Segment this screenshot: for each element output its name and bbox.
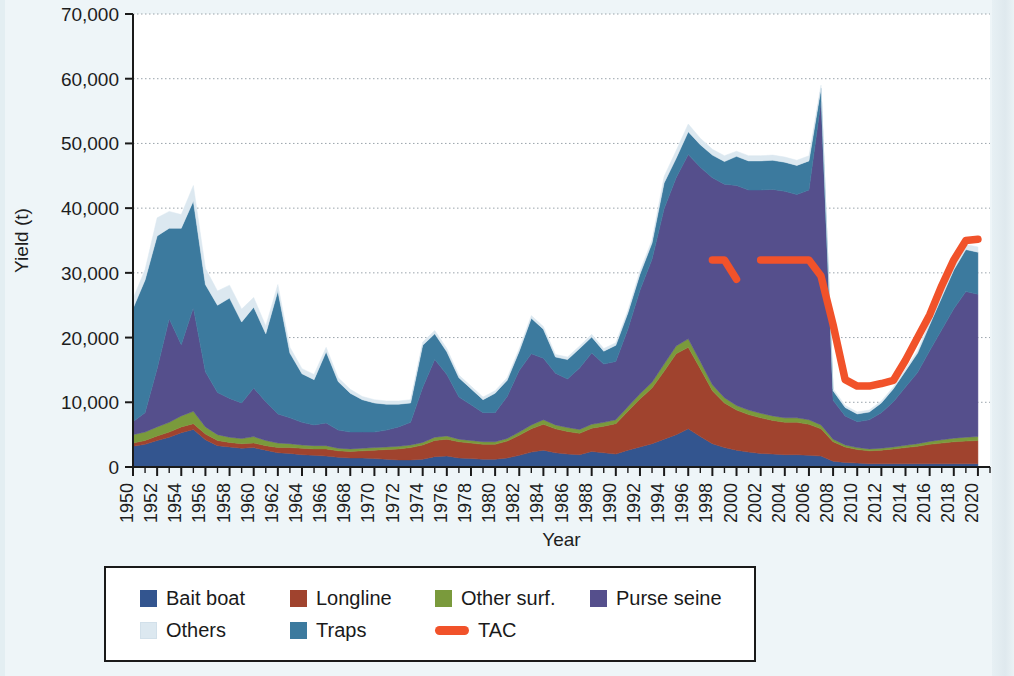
x-tick-label: 1994 — [648, 483, 668, 523]
legend-color-swatch-traps — [290, 622, 307, 639]
legend-color-swatch-bait-boat — [140, 590, 157, 607]
legend-item-purse-seine[interactable]: Purse seine — [590, 587, 722, 610]
x-tick-label: 1952 — [141, 483, 161, 523]
x-axis-ticks: 1950195219541956195819601962196419661968… — [117, 467, 990, 523]
x-tick-label: 1966 — [310, 483, 330, 523]
legend-label-purse-seine: Purse seine — [616, 587, 722, 610]
x-tick-label: 1978 — [455, 483, 475, 523]
x-tick-label: 2008 — [817, 483, 837, 523]
legend-label-tac: TAC — [478, 619, 517, 642]
x-tick-label: 1958 — [214, 483, 234, 523]
x-tick-label: 2018 — [938, 483, 958, 523]
x-tick-label: 1950 — [117, 483, 137, 523]
legend-color-swatch-others — [140, 622, 157, 639]
x-tick-label: 1982 — [503, 483, 523, 523]
x-tick-label: 2016 — [914, 483, 934, 523]
x-tick-label: 1960 — [238, 483, 258, 523]
legend-color-swatch-longline — [290, 590, 307, 607]
legend-item-longline[interactable]: Longline — [290, 587, 435, 610]
legend-label-longline: Longline — [316, 587, 392, 610]
legend-item-bait-boat[interactable]: Bait boat — [140, 587, 290, 610]
x-tick-label: 2002 — [745, 483, 765, 523]
legend-color-swatch-other-surf — [435, 590, 452, 607]
x-tick-label: 2004 — [769, 483, 789, 523]
x-tick-label: 1992 — [624, 483, 644, 523]
x-tick-label: 1970 — [358, 483, 378, 523]
y-tick-label: 40,000 — [61, 198, 119, 219]
x-tick-label: 1976 — [431, 483, 451, 523]
x-tick-label: 2014 — [890, 483, 910, 523]
legend-color-swatch-purse-seine — [590, 590, 607, 607]
x-tick-label: 1962 — [262, 483, 282, 523]
y-tick-label: 50,000 — [61, 133, 119, 154]
legend-label-others: Others — [166, 619, 226, 642]
legend-item-other-surf[interactable]: Other surf. — [435, 587, 590, 610]
x-tick-label: 1972 — [383, 483, 403, 523]
page-edge-left — [0, 0, 5, 676]
legend-item-tac[interactable]: TAC — [435, 619, 517, 642]
y-tick-label: 30,000 — [61, 263, 119, 284]
x-tick-label: 1998 — [696, 483, 716, 523]
legend-label-other-surf: Other surf. — [461, 587, 555, 610]
x-tick-label: 1956 — [189, 483, 209, 523]
x-axis-title: Year — [542, 529, 581, 550]
legend-row: OthersTrapsTAC — [140, 614, 754, 646]
x-tick-label: 2012 — [865, 483, 885, 523]
figure-root: 010,00020,00030,00040,00050,00060,00070,… — [0, 0, 1014, 676]
x-tick-label: 1988 — [576, 483, 596, 523]
x-tick-label: 2000 — [721, 483, 741, 523]
x-tick-label: 2010 — [841, 483, 861, 523]
legend-line-swatch-tac — [435, 626, 469, 635]
stacked-area-chart: 010,00020,00030,00040,00050,00060,00070,… — [0, 0, 1014, 566]
legend-label-traps: Traps — [316, 619, 366, 642]
y-tick-label: 20,000 — [61, 328, 119, 349]
page-edge-right — [992, 0, 1014, 676]
x-tick-label: 1986 — [552, 483, 572, 523]
legend-row: Bait boatLonglineOther surf.Purse seine — [140, 582, 754, 614]
x-tick-label: 1984 — [527, 483, 547, 523]
y-tick-label: 70,000 — [61, 4, 119, 25]
legend-item-traps[interactable]: Traps — [290, 619, 435, 642]
x-tick-label: 1964 — [286, 483, 306, 523]
x-tick-label: 1990 — [600, 483, 620, 523]
x-tick-label: 1980 — [479, 483, 499, 523]
y-axis-title: Yield (t) — [11, 208, 32, 273]
y-axis-ticks: 010,00020,00030,00040,00050,00060,00070,… — [61, 4, 133, 478]
chart-legend: Bait boatLonglineOther surf.Purse seineO… — [104, 566, 756, 662]
x-tick-label: 2020 — [962, 483, 982, 523]
legend-label-bait-boat: Bait boat — [166, 587, 245, 610]
x-tick-label: 1954 — [165, 483, 185, 523]
x-tick-label: 1968 — [334, 483, 354, 523]
y-tick-label: 10,000 — [61, 392, 119, 413]
legend-item-others[interactable]: Others — [140, 619, 290, 642]
y-tick-label: 60,000 — [61, 69, 119, 90]
x-tick-label: 1974 — [407, 483, 427, 523]
x-tick-label: 1996 — [672, 483, 692, 523]
x-tick-label: 2006 — [793, 483, 813, 523]
y-tick-label: 0 — [108, 457, 119, 478]
